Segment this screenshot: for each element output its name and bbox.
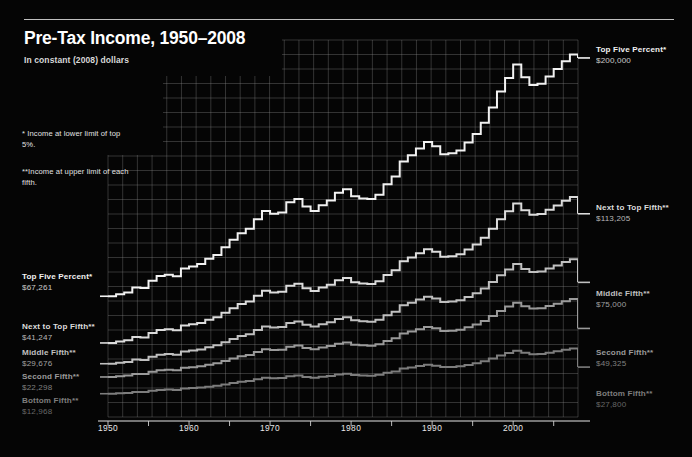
series-label-left-3: Second Fifth**$22,298 xyxy=(22,372,79,392)
title-block: Pre-Tax Income, 1950–2008 In constant (2… xyxy=(24,24,282,65)
series-value: $67,261 xyxy=(22,283,92,292)
plot-area xyxy=(0,0,692,457)
series-name: Bottom Fifth** xyxy=(596,389,653,398)
x-tick-1960: 1960 xyxy=(179,423,199,433)
series-name: Second Fifth** xyxy=(22,372,79,381)
series-name: Top Five Percent* xyxy=(596,45,666,54)
series-label-left-2: Middle Fifth**$29,676 xyxy=(22,348,76,368)
series-value: $22,298 xyxy=(22,383,79,392)
x-tick-1950: 1950 xyxy=(98,423,118,433)
chart-subtitle: In constant (2008) dollars xyxy=(24,55,282,65)
x-axis-tick-labels: 195019601970198019902000 xyxy=(0,423,692,439)
series-name: Middle Fifth** xyxy=(596,289,650,298)
footnote-single-star: * Income at lower limit of top 5%. xyxy=(22,128,130,150)
series-label-right-1: Next to Top Fifth**$113,205 xyxy=(596,203,669,223)
series-label-left-0: Top Five Percent*$67,261 xyxy=(22,272,92,292)
x-tick-2000: 2000 xyxy=(503,423,523,433)
series-value: $75,000 xyxy=(596,300,650,309)
series-value: $113,205 xyxy=(596,214,669,223)
series-label-right-0: Top Five Percent*$200,000 xyxy=(596,45,666,65)
page-title: Pre-Tax Income, 1950–2008 xyxy=(24,28,282,49)
series-value: $200,000 xyxy=(596,56,666,65)
series-label-right-3: Second Fifth**$49,325 xyxy=(596,348,653,368)
income-line-chart xyxy=(0,0,692,457)
series-value: $12,968 xyxy=(22,407,79,416)
series-label-left-4: Bottom Fifth**$12,968 xyxy=(22,396,79,416)
series-value: $27,800 xyxy=(596,400,653,409)
series-name: Next to Top Fifth** xyxy=(22,322,95,331)
footnote-double-star: **Income at upper limit of each fifth. xyxy=(22,166,130,188)
series-label-right-2: Middle Fifth**$75,000 xyxy=(596,289,650,309)
x-tick-1970: 1970 xyxy=(260,423,280,433)
x-tick-1980: 1980 xyxy=(341,423,361,433)
series-name: Middle Fifth** xyxy=(22,348,76,357)
series-name: Bottom Fifth** xyxy=(22,396,79,405)
series-value: $49,325 xyxy=(596,359,653,368)
chart-page: Pre-Tax Income, 1950–2008 In constant (2… xyxy=(0,0,692,457)
series-label-right-4: Bottom Fifth**$27,800 xyxy=(596,389,653,409)
series-name: Next to Top Fifth** xyxy=(596,203,669,212)
series-value: $29,676 xyxy=(22,359,76,368)
series-value: $41,247 xyxy=(22,333,95,342)
footnotes: * Income at lower limit of top 5%. **Inc… xyxy=(22,128,130,204)
gridlines xyxy=(108,40,578,417)
series-label-left-1: Next to Top Fifth**$41,247 xyxy=(22,322,95,342)
series-name: Second Fifth** xyxy=(596,348,653,357)
x-tick-1990: 1990 xyxy=(422,423,442,433)
series-name: Top Five Percent* xyxy=(22,272,92,281)
